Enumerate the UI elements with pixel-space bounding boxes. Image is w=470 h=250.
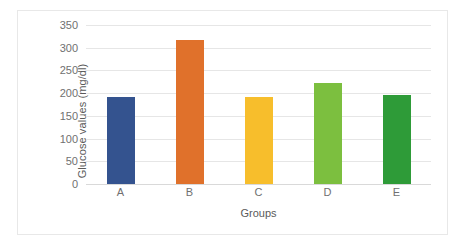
x-axis-tick-label: D — [324, 187, 332, 198]
plot-area — [86, 25, 431, 184]
x-axis-tick-labels: ABCDE — [86, 187, 431, 203]
bar-a — [107, 97, 135, 184]
x-axis-title: Groups — [86, 207, 431, 219]
y-axis-tick-label: 250 — [60, 65, 78, 76]
y-axis-tick-label: 150 — [60, 110, 78, 121]
bar-series — [86, 25, 431, 184]
bar-b — [176, 40, 204, 184]
x-axis-tick-label: E — [393, 187, 400, 198]
y-axis-tick-label: 0 — [72, 179, 78, 190]
y-axis-tick-label: 50 — [66, 156, 78, 167]
bar-chart: Glucose values (mg/dl) 05010015020025030… — [0, 0, 470, 250]
bar-d — [314, 83, 342, 184]
bar-e — [383, 95, 411, 184]
bar-c — [245, 97, 273, 184]
gridline — [86, 184, 431, 185]
x-axis-tick-label: B — [186, 187, 193, 198]
chart-frame: Glucose values (mg/dl) 05010015020025030… — [17, 10, 448, 235]
y-axis-tick-label: 100 — [60, 133, 78, 144]
y-axis-tick-label: 350 — [60, 20, 78, 31]
y-axis-tick-label: 200 — [60, 88, 78, 99]
y-axis-tick-labels: 050100150200250300350 — [38, 25, 82, 184]
y-axis-tick-label: 300 — [60, 42, 78, 53]
x-axis-tick-label: A — [117, 187, 124, 198]
x-axis-tick-label: C — [255, 187, 263, 198]
